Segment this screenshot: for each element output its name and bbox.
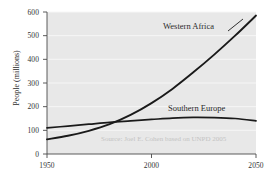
y-tick-label-100: 100 (13, 127, 39, 135)
x-tick-label-2000: 2000 (135, 162, 169, 170)
series-label-western-africa: Western Africa (163, 22, 214, 31)
population-line-chart: People (millions) 600 500 400 300 200 10… (0, 0, 271, 179)
y-tick-label-600: 600 (13, 9, 39, 17)
y-tick-label-200: 200 (13, 103, 39, 111)
x-tick-label-1950: 1950 (30, 162, 64, 170)
y-tick-label-0: 0 (13, 151, 39, 159)
x-tick-label-2050: 2050 (239, 162, 271, 170)
y-tick-label-400: 400 (13, 56, 39, 64)
series-label-southern-europe: Southern Europe (168, 104, 225, 113)
y-tick-label-300: 300 (13, 80, 39, 88)
source-attribution: Source: Joel E. Cohen based on UNPD 2005 (101, 136, 226, 143)
y-tick-label-500: 500 (13, 32, 39, 40)
y-axis-title: People (millions) (13, 30, 21, 126)
chart-canvas (0, 0, 271, 179)
